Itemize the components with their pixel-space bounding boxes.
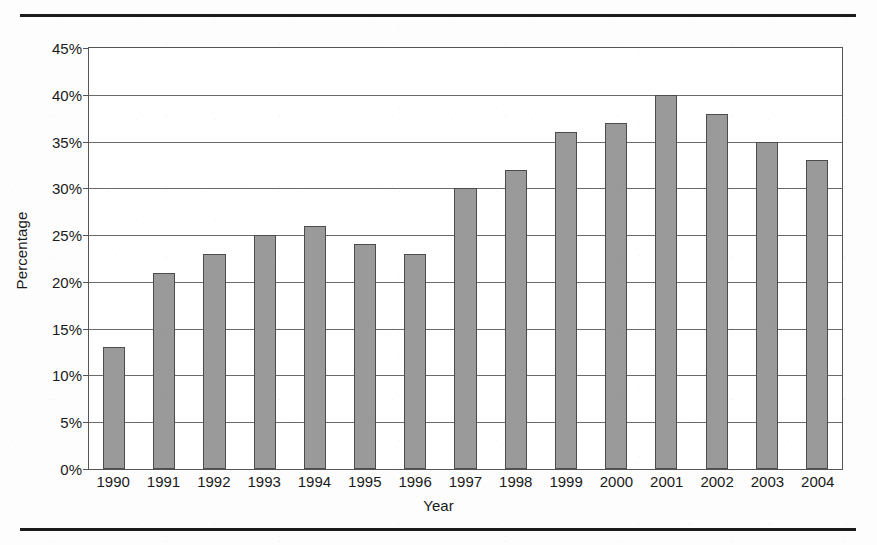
bar-slot	[290, 48, 340, 469]
y-axis-tick-label: 20%	[52, 273, 82, 290]
x-axis-title: Year	[0, 497, 877, 514]
figure-top-rule	[20, 14, 856, 17]
bar-chart-figure: Percentage 0%5%10%15%20%25%30%35%40%45% …	[0, 20, 877, 525]
bar-2000[interactable]	[605, 123, 627, 469]
y-axis-title: Percentage	[13, 201, 30, 301]
y-axis-tick-label: 35%	[52, 133, 82, 150]
bar-1994[interactable]	[304, 226, 326, 469]
x-axis-tick-label: 1990	[88, 473, 138, 490]
bar-slot	[541, 48, 591, 469]
bar-slot	[591, 48, 641, 469]
bar-slot	[792, 48, 842, 469]
bar-slot	[240, 48, 290, 469]
x-axis-tick-label: 1999	[541, 473, 591, 490]
bar-slot	[440, 48, 490, 469]
bars-layer	[89, 48, 842, 469]
y-axis-tick-label: 25%	[52, 227, 82, 244]
bar-2001[interactable]	[655, 95, 677, 469]
y-axis-tick-label: 40%	[52, 86, 82, 103]
bar-2003[interactable]	[756, 142, 778, 469]
bar-slot	[491, 48, 541, 469]
bar-1998[interactable]	[505, 170, 527, 469]
x-axis-tick-label: 1997	[440, 473, 490, 490]
x-axis-tick-label: 1991	[138, 473, 188, 490]
bar-slot	[340, 48, 390, 469]
x-axis-tick-label: 2001	[642, 473, 692, 490]
y-axis-tick-label: 45%	[52, 40, 82, 57]
bar-1997[interactable]	[454, 188, 476, 469]
x-axis-tick-label: 2000	[591, 473, 641, 490]
bar-slot	[742, 48, 792, 469]
y-axis-tick-label: 10%	[52, 367, 82, 384]
x-axis-tick-label: 1993	[239, 473, 289, 490]
bar-1992[interactable]	[203, 254, 225, 469]
bar-1991[interactable]	[153, 273, 175, 469]
bar-slot	[641, 48, 691, 469]
y-axis-tick-mark	[83, 469, 89, 470]
x-axis-tick-label: 1994	[289, 473, 339, 490]
x-axis-tick-labels: 1990199119921993199419951996199719981999…	[88, 473, 843, 490]
x-axis-tick-label: 1995	[340, 473, 390, 490]
bar-1999[interactable]	[555, 132, 577, 469]
x-axis-tick-label: 2003	[742, 473, 792, 490]
y-axis-tick-label: 0%	[60, 461, 82, 478]
y-axis-tick-label: 30%	[52, 180, 82, 197]
bar-slot	[691, 48, 741, 469]
figure-bottom-rule	[20, 528, 856, 531]
bar-slot	[89, 48, 139, 469]
bar-2004[interactable]	[806, 160, 828, 469]
x-axis-tick-label: 2002	[692, 473, 742, 490]
plot-area: 0%5%10%15%20%25%30%35%40%45%	[88, 47, 843, 470]
x-axis-tick-label: 1992	[189, 473, 239, 490]
x-axis-tick-label: 1996	[390, 473, 440, 490]
bar-2002[interactable]	[706, 114, 728, 470]
bar-slot	[189, 48, 239, 469]
bar-1993[interactable]	[254, 235, 276, 469]
bar-1995[interactable]	[354, 244, 376, 469]
x-axis-tick-label: 2004	[793, 473, 843, 490]
bar-slot	[390, 48, 440, 469]
bar-1996[interactable]	[404, 254, 426, 469]
y-axis-tick-label: 5%	[60, 414, 82, 431]
y-axis-tick-label: 15%	[52, 320, 82, 337]
x-axis-tick-label: 1998	[491, 473, 541, 490]
bar-1990[interactable]	[103, 347, 125, 469]
bar-slot	[139, 48, 189, 469]
scanned-page: Percentage 0%5%10%15%20%25%30%35%40%45% …	[0, 0, 877, 545]
